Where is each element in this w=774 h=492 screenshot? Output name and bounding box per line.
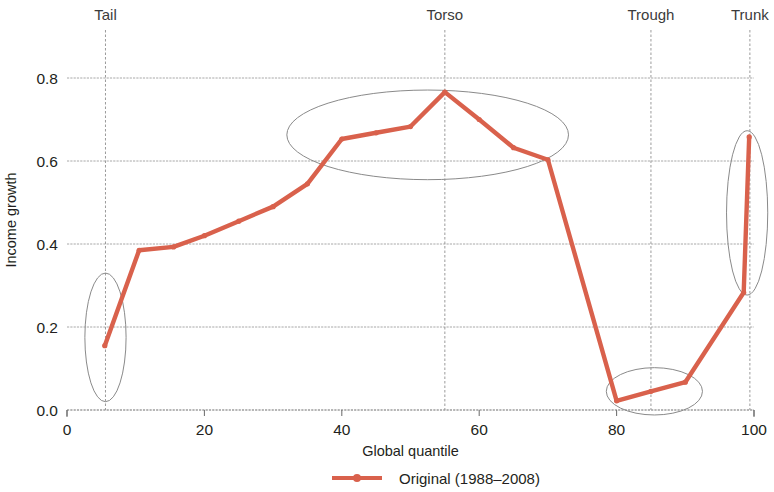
x-axis-tick-label: 60: [471, 421, 489, 438]
x-axis-tick-label: 80: [608, 421, 626, 438]
data-point: [236, 219, 241, 224]
data-point: [741, 290, 746, 295]
chart-page: 0204060801000.00.20.40.60.8Global quanti…: [0, 0, 774, 492]
x-axis-tick-label: 40: [333, 421, 351, 438]
data-point: [648, 389, 653, 394]
data-point: [614, 398, 619, 403]
annotation-label-trough: Trough: [627, 6, 674, 23]
data-point: [305, 181, 310, 186]
data-point: [171, 244, 176, 249]
series-line-original: [105, 92, 749, 401]
y-axis-tick-label: 0.6: [36, 153, 58, 170]
data-point: [339, 136, 344, 141]
legend-entry-label: Original (1988–2008): [399, 470, 540, 487]
data-point: [202, 233, 207, 238]
annotation-label-trunk: Trunk: [731, 6, 769, 23]
y-axis-tick-label: 0.8: [36, 70, 58, 87]
y-axis-tick-label: 0.0: [36, 402, 58, 419]
elephant-curve-chart: 0204060801000.00.20.40.60.8Global quanti…: [0, 0, 774, 492]
y-axis-tick-label: 0.2: [36, 319, 58, 336]
x-axis-tick-label: 0: [63, 421, 72, 438]
y-axis-title: Income growth: [3, 172, 19, 267]
data-point: [683, 380, 688, 385]
data-point: [511, 145, 516, 150]
annotation-label-torso: Torso: [427, 6, 464, 23]
legend-marker-dot: [353, 474, 361, 482]
x-axis-title: Global quantile: [362, 443, 459, 459]
y-axis-tick-label: 0.4: [36, 236, 58, 253]
data-point: [271, 204, 276, 209]
data-point: [747, 134, 752, 139]
data-point: [137, 248, 142, 253]
data-point: [477, 117, 482, 122]
data-point: [102, 343, 107, 348]
x-axis-tick-label: 100: [741, 421, 767, 438]
data-point: [374, 130, 379, 135]
data-point: [545, 157, 550, 162]
annotation-ellipse-torso: [287, 90, 569, 180]
data-point: [442, 90, 447, 95]
annotation-label-tail: Tail: [94, 6, 117, 23]
data-point: [408, 124, 413, 129]
x-axis-tick-label: 20: [196, 421, 214, 438]
